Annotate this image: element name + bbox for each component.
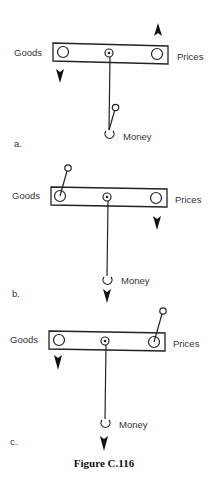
goods-label: Goods (12, 190, 40, 201)
goods-pan-icon (58, 47, 69, 58)
balance-bar (51, 187, 167, 207)
panel-b: Goods Prices Money b. (12, 165, 202, 303)
prices-label: Prices (173, 338, 200, 349)
money-label: Money (123, 131, 152, 142)
money-hook-icon (103, 277, 112, 284)
pivot-center-icon (104, 340, 107, 343)
arrow-down-icon (100, 436, 108, 451)
panel-c: Goods Prices Money c. (10, 308, 200, 451)
panel-b-label: b. (12, 288, 20, 299)
pivot-center-icon (108, 52, 111, 55)
money-hook-icon (101, 420, 110, 427)
weight-ball-icon (65, 165, 71, 171)
prices-label: Prices (175, 194, 202, 205)
prices-pan-icon (151, 193, 162, 204)
panel-c-label: c. (10, 436, 17, 447)
goods-label: Goods (14, 47, 42, 58)
arrow-down-icon (153, 216, 161, 230)
pivot-center-icon (106, 196, 109, 199)
panel-a-label: a. (14, 138, 22, 149)
prices-label: Prices (177, 51, 204, 62)
goods-pan-icon (54, 335, 65, 346)
arrow-up-icon (154, 23, 162, 36)
panel-a: Goods Prices Money a. (14, 23, 204, 149)
figure-caption: Figure C.116 (74, 457, 135, 469)
arrow-down-icon (54, 355, 62, 370)
balance-bar (49, 331, 165, 351)
arrow-down-icon (56, 69, 64, 83)
money-label: Money (121, 275, 150, 286)
weight-ball-icon (160, 308, 166, 314)
balance-diagram: Goods Prices Money a. Goods Prices (0, 0, 214, 483)
prices-pan-icon (152, 49, 163, 60)
money-hook-icon (105, 131, 114, 138)
goods-label: Goods (10, 334, 38, 345)
money-label: Money (119, 419, 148, 430)
arrow-down-icon (103, 289, 111, 303)
weight-ball-icon (112, 104, 118, 110)
